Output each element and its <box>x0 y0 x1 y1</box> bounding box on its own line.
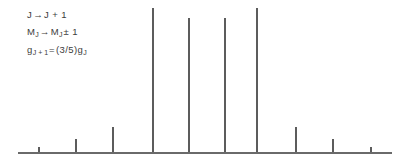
spectrum-line-4 <box>152 8 154 152</box>
spectrum-line-2 <box>75 139 77 152</box>
spectrum-line-5 <box>188 18 190 152</box>
spectrum-line-6 <box>224 18 226 152</box>
spectrum-baseline-axis <box>18 152 392 154</box>
spectrum-line-1 <box>38 147 40 152</box>
spectrum-line-10 <box>370 147 372 152</box>
spectrum-line-7 <box>256 8 258 152</box>
stick-spectrum-plot <box>0 0 420 162</box>
zeeman-spectrum-figure: J→J + 1 MJ→MJ± 1 gJ + 1=(3/5)gJ <box>0 0 420 162</box>
spectrum-line-3 <box>112 127 114 152</box>
spectrum-line-9 <box>332 139 334 152</box>
spectrum-line-8 <box>295 127 297 152</box>
